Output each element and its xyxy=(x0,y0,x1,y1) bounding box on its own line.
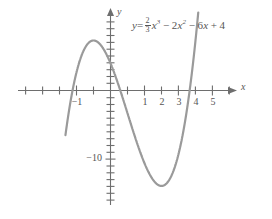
equation-op1: − xyxy=(163,19,169,31)
cubic-function-graph-figure: y=23x3 − 2x2 − 6x + 4 y x −1 1 2 3 4 5 −… xyxy=(0,0,272,219)
equation-term1-exponent: 3 xyxy=(157,18,161,26)
fraction-numerator: 2 xyxy=(145,17,151,25)
x-tick-label-minus-1: −1 xyxy=(68,96,86,107)
equation-constant: 4 xyxy=(219,19,225,31)
y-tick-label-minus-10: −10 xyxy=(76,152,102,163)
x-tick-label-4: 4 xyxy=(188,96,204,107)
x-tick-label-3: 3 xyxy=(171,96,187,107)
equation-annotation: y=23x3 − 2x2 − 6x + 4 xyxy=(132,17,225,34)
equation-fraction: 23 xyxy=(145,17,151,34)
x-tick-label-2: 2 xyxy=(154,96,170,107)
y-axis-label: y xyxy=(117,6,121,17)
x-tick-label-1: 1 xyxy=(137,96,153,107)
fraction-denominator: 3 xyxy=(145,25,151,34)
y-axis-arrowhead xyxy=(107,8,114,16)
equation-op2: − xyxy=(189,19,195,31)
x-tick-label-5: 5 xyxy=(205,96,221,107)
equation-equals: = xyxy=(137,19,143,31)
equation-term2-exponent: 2 xyxy=(183,18,187,26)
equation-op3: + xyxy=(211,19,217,31)
equation-term3-var: x xyxy=(203,19,208,31)
x-axis-label: x xyxy=(241,81,245,92)
